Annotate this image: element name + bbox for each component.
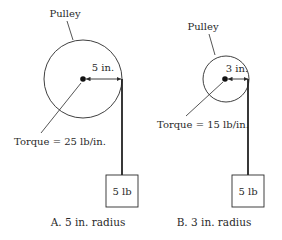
pulley-b-axle (222, 76, 228, 82)
torque-a-leader-line (41, 83, 81, 133)
caption-b: B. 3 in. radius (177, 216, 252, 228)
pulley-b-label: Pulley (187, 21, 218, 32)
pulley-torque-diagram: Pulley 5 in. Torque = 25 lb/in. 5 lb A. … (0, 0, 282, 240)
weight-a-label: 5 lb (112, 186, 131, 197)
torque-b-label: Torque = 15 lb/in. (157, 119, 249, 130)
radius-a-label: 5 in. (92, 62, 114, 73)
panel-b: Pulley 3 in. Torque = 15 lb/in. 5 lb B. … (157, 21, 264, 228)
pulley-a-leader-line (67, 21, 73, 40)
torque-a-label: Torque = 25 lb/in. (14, 136, 106, 147)
pulley-a-label: Pulley (49, 8, 80, 19)
caption-a: A. 5 in. radius (50, 216, 126, 228)
pulley-b-leader-line (209, 34, 215, 55)
radius-b-label: 3 in. (226, 63, 248, 74)
panel-a: Pulley 5 in. Torque = 25 lb/in. 5 lb A. … (14, 8, 138, 228)
weight-b-label: 5 lb (238, 186, 257, 197)
pulley-a-axle (80, 76, 86, 82)
